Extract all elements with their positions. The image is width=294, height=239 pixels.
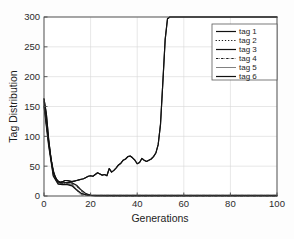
x-tick-label-100: 100	[269, 198, 285, 209]
y-tick-label-200: 200	[24, 71, 40, 82]
y-tick-label-250: 250	[24, 41, 40, 52]
y-tick-label-50: 50	[29, 161, 40, 172]
tag-distribution-line-chart: 0 20 40 60 80 100 0 50 100 150 200 250 3…	[0, 0, 294, 239]
y-tick-label-100: 100	[24, 131, 40, 142]
y-tick-label-150: 150	[24, 101, 40, 112]
legend-label-tag-4: tag 4	[239, 54, 257, 63]
legend-label-tag-5: tag 5	[239, 63, 257, 72]
y-tick-label-0: 0	[35, 190, 40, 201]
legend-label-tag-6: tag 6	[239, 72, 257, 81]
legend-label-tag-1: tag 1	[239, 27, 257, 36]
chart-figure: 0 20 40 60 80 100 0 50 100 150 200 250 3…	[0, 0, 294, 239]
x-tick-label-20: 20	[85, 198, 96, 209]
x-tick-label-80: 80	[225, 198, 236, 209]
x-tick-label-60: 60	[179, 198, 190, 209]
x-tick-label-40: 40	[132, 198, 143, 209]
legend-label-tag-2: tag 2	[239, 36, 257, 45]
y-tick-label-300: 300	[24, 11, 40, 22]
y-axis-title: Tag Distribution	[7, 70, 19, 143]
chart-legend[interactable]: tag 1 tag 2 tag 3 tag 4 tag 5 tag 6	[212, 24, 277, 81]
x-axis-title: Generations	[131, 212, 188, 224]
x-tick-label-0: 0	[41, 198, 46, 209]
legend-label-tag-3: tag 3	[239, 45, 257, 54]
